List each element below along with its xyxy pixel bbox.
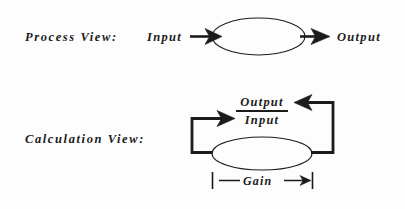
left-feedback-path [192, 111, 235, 153]
diagram-canvas: Process View: Input Output Calculation V… [0, 0, 405, 209]
calculation-view-ellipse [212, 137, 312, 170]
process-view-output-arrow [300, 29, 330, 45]
diagram-vector-layer [0, 0, 405, 209]
process-view-input-arrow [190, 29, 222, 45]
process-view-ellipse [212, 18, 305, 55]
right-feedback-path [294, 95, 333, 153]
gain-dimension-line [213, 172, 313, 189]
